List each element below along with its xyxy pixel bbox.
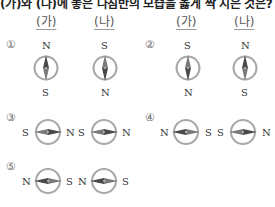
option-4-na-left-label: S [217, 128, 224, 138]
header-ga-1: (가) [36, 12, 56, 29]
compass-icon [226, 118, 260, 146]
option-2-na-bottom-label: S [241, 88, 248, 98]
option-1-na-bottom-label: N [101, 88, 110, 98]
option-4-na-right-label: N [262, 128, 271, 138]
compass-icon [92, 51, 118, 85]
option-3-number[interactable]: ③ [6, 111, 16, 124]
option-1-number[interactable]: ① [6, 38, 16, 51]
compass-icon [232, 51, 258, 85]
option-3-ga-left-label: S [22, 128, 29, 138]
option-2-ga-top-label: S [184, 41, 191, 51]
option-4-ga-left-label: N [160, 128, 169, 138]
option-5-ga-right-label: S [66, 177, 73, 187]
header-na-2: (나) [234, 12, 254, 29]
compass-icon [169, 118, 203, 146]
option-3-ga-right-label: N [66, 128, 75, 138]
option-3-na-right-label: N [122, 128, 131, 138]
option-2-na-top-label: N [241, 41, 250, 51]
compass-icon [87, 167, 121, 195]
option-4-number[interactable]: ④ [145, 111, 155, 124]
option-5-number[interactable]: ⑤ [6, 160, 16, 173]
compass-icon [31, 167, 65, 195]
question-text: (가)와 (나)에 놓은 나침반의 모습을 옳게 짝 지은 것은? [0, 0, 275, 11]
option-5-na-right-label: S [122, 177, 129, 187]
option-2-number[interactable]: ② [145, 38, 155, 51]
compass-icon [175, 51, 201, 85]
option-1-ga-bottom-label: S [42, 88, 49, 98]
option-3-na-left-label: S [78, 128, 85, 138]
compass-icon [87, 118, 121, 146]
option-1-na-top-label: S [101, 41, 108, 51]
option-4-ga-right-label: S [205, 128, 212, 138]
option-2-ga-bottom-label: N [184, 88, 193, 98]
compass-icon [33, 51, 59, 85]
option-5-ga-left-label: N [22, 177, 31, 187]
option-1-ga-top-label: N [42, 41, 51, 51]
header-na-1: (나) [94, 12, 114, 29]
compass-icon [31, 118, 65, 146]
header-ga-2: (가) [176, 12, 196, 29]
option-5-na-left-label: N [78, 177, 87, 187]
